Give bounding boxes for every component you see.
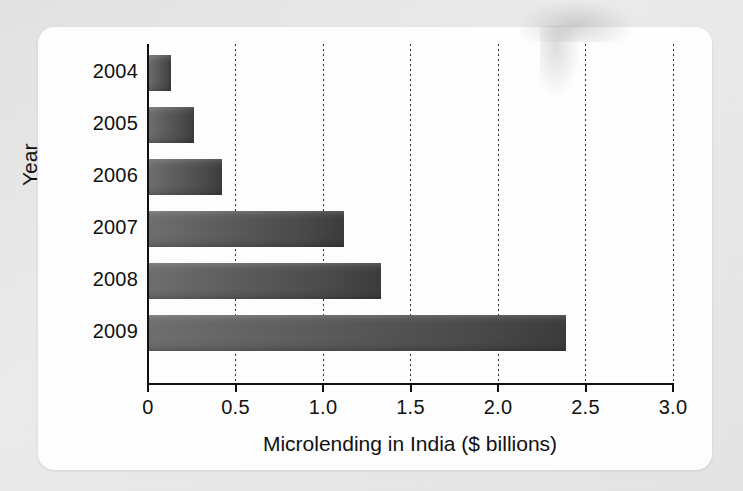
x-tick-label-2.0: 2.0 (484, 396, 512, 419)
bar-2007 (148, 211, 344, 247)
gridline-2.5 (585, 44, 586, 383)
y-tick-label-2008: 2008 (93, 268, 138, 291)
x-tick-label-2.5: 2.5 (571, 396, 599, 419)
bar-2005 (148, 107, 194, 143)
x-axis-title: Microlending in India ($ billions) (147, 432, 673, 456)
x-tick-3.0 (672, 383, 674, 392)
y-tick-label-2009: 2009 (93, 320, 138, 343)
y-tick-label-2007: 2007 (93, 216, 138, 239)
y-axis-tick-labels-group: 200420052006200720082009 (0, 0, 138, 491)
x-tick-label-0.5: 0.5 (221, 396, 249, 419)
x-tick-label-1.5: 1.5 (396, 396, 424, 419)
x-tick-0.5 (235, 383, 237, 392)
x-tick-0 (147, 383, 149, 392)
x-tick-2.5 (585, 383, 587, 392)
y-tick-label-2004: 2004 (93, 60, 138, 83)
bar-2009 (148, 315, 566, 351)
y-tick-label-2005: 2005 (93, 112, 138, 135)
x-tick-label-0: 0 (142, 396, 153, 419)
y-tick-label-2006: 2006 (93, 164, 138, 187)
bar-2008 (148, 263, 381, 299)
x-tick-2.0 (497, 383, 499, 392)
bar-chart-plot: 00.51.01.52.02.53.0 20042005200620072008… (0, 0, 743, 491)
chart-page: 00.51.01.52.02.53.0 20042005200620072008… (0, 0, 743, 491)
x-tick-label-1.0: 1.0 (309, 396, 337, 419)
y-axis-line (147, 44, 149, 385)
y-axis-title: Year (18, 144, 42, 186)
x-tick-1.0 (322, 383, 324, 392)
gridline-3.0 (673, 44, 674, 383)
x-tick-label-3.0: 3.0 (659, 396, 687, 419)
bar-2004 (148, 55, 171, 91)
x-tick-1.5 (410, 383, 412, 392)
bar-2006 (148, 159, 222, 195)
